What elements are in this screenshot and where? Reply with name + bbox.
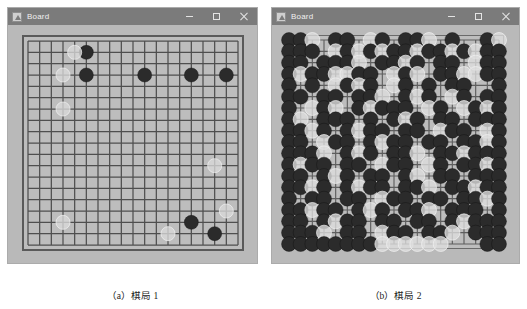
board-app-icon — [12, 12, 22, 22]
titlebar-a[interactable]: Board — [8, 8, 257, 25]
window-title-a: Board — [27, 13, 49, 21]
close-icon — [240, 13, 248, 21]
close-button-b[interactable] — [492, 8, 519, 25]
board-grid-a — [24, 37, 242, 249]
minimize-button-b[interactable] — [438, 8, 465, 25]
maximize-button-b[interactable] — [465, 8, 492, 25]
board-window-b: Board — [272, 8, 519, 263]
titlebar-b[interactable]: Board — [272, 8, 519, 25]
figure-root: Board — [0, 0, 527, 309]
board-grid-b — [285, 36, 503, 248]
board-window-a: Board — [8, 8, 257, 263]
client-area-a — [8, 25, 257, 263]
minimize-icon — [186, 16, 193, 17]
close-icon — [502, 13, 510, 21]
window-controls-b — [438, 8, 519, 25]
maximize-button-a[interactable] — [203, 8, 230, 25]
window-controls-a — [176, 8, 257, 25]
maximize-icon — [475, 13, 482, 20]
panel-a: Board — [8, 8, 257, 263]
board-app-icon — [276, 12, 286, 22]
close-button-a[interactable] — [230, 8, 257, 25]
client-area-b — [272, 25, 519, 263]
go-board-b[interactable] — [284, 35, 504, 249]
window-title-b: Board — [291, 13, 313, 21]
minimize-icon — [448, 16, 455, 17]
minimize-button-a[interactable] — [176, 8, 203, 25]
caption-b: （b）棋局 2 — [272, 288, 519, 302]
go-board-a[interactable] — [22, 35, 244, 251]
panel-b: Board — [272, 8, 519, 263]
caption-a: （a）棋局 1 — [8, 288, 257, 302]
maximize-icon — [213, 13, 220, 20]
